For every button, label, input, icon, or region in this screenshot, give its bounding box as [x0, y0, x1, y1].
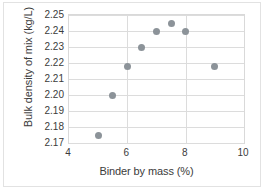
y-tick-label: 2.19 [26, 105, 64, 116]
gridline-horizontal [69, 143, 244, 144]
x-axis-title: Binder by mass (%) [44, 165, 249, 177]
data-point [124, 63, 131, 70]
y-tick-label: 2.25 [26, 9, 64, 20]
x-tick-label: 8 [170, 147, 200, 158]
y-tick-label: 2.24 [26, 25, 64, 36]
y-tick-label: 2.21 [26, 73, 64, 84]
y-tick-label: 2.20 [26, 89, 64, 100]
x-tick-label: 10 [228, 147, 258, 158]
y-tick-label: 2.17 [26, 137, 64, 148]
y-tick-label: 2.22 [26, 57, 64, 68]
gridline-horizontal [69, 15, 244, 16]
gridline-horizontal [69, 95, 244, 96]
y-tick-label: 2.23 [26, 41, 64, 52]
data-point [95, 132, 102, 139]
gridline-horizontal [69, 47, 244, 48]
data-point [109, 92, 116, 99]
data-point [182, 28, 189, 35]
y-axis-tick-labels: 2.172.182.192.202.212.222.232.242.25 [26, 14, 64, 144]
data-point [153, 28, 160, 35]
data-point [138, 44, 145, 51]
plot-area [68, 14, 245, 144]
chart-container: Bulk density of mix (kg/L) 2.172.182.192… [3, 2, 261, 187]
gridline-horizontal [69, 127, 244, 128]
gridline-horizontal [69, 63, 244, 64]
x-axis-tick-labels: 46810 [68, 147, 245, 161]
gridline-horizontal [69, 111, 244, 112]
x-tick-label: 6 [111, 147, 141, 158]
gridline-vertical [127, 15, 128, 143]
data-point [211, 63, 218, 70]
gridline-horizontal [69, 79, 244, 80]
x-tick-label: 4 [53, 147, 83, 158]
data-point [168, 20, 175, 27]
y-tick-label: 2.18 [26, 121, 64, 132]
